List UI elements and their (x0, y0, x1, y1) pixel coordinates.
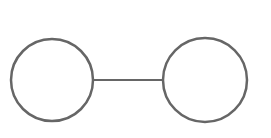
diagram-canvas (0, 0, 271, 138)
node-left (11, 39, 93, 121)
node-right (163, 38, 247, 122)
